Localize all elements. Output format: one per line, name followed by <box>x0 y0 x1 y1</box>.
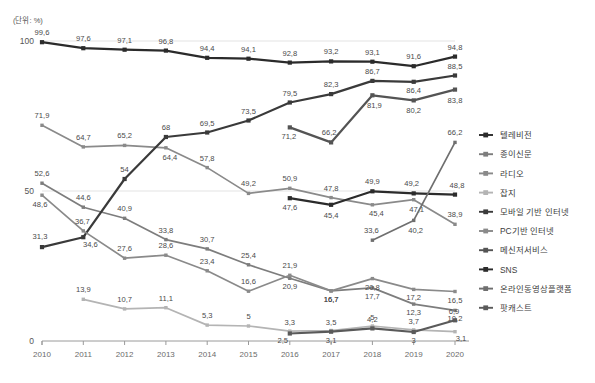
data-point-marker <box>40 40 44 44</box>
data-point-label: 25,4 <box>241 251 256 260</box>
data-point-marker <box>206 247 209 250</box>
legend-item-팟캐스트[interactable]: 팟캐스트 <box>479 303 532 313</box>
data-point-marker <box>329 203 333 207</box>
data-point-marker <box>412 80 416 84</box>
data-point-label: 71,9 <box>35 111 50 120</box>
data-point-label: 79,5 <box>282 89 297 98</box>
data-point-label: 91,6 <box>406 52 421 61</box>
data-point-label: 81,9 <box>367 101 382 110</box>
data-point-label: 13,9 <box>76 285 91 294</box>
series-모바일 기반 인터넷: 31,334,6546869,573,579,582,386,786,488,5 <box>33 62 463 250</box>
legend-label: 종이신문 <box>500 149 532 159</box>
data-point-label: 97,6 <box>76 34 91 43</box>
data-point-label: 33,8 <box>159 226 174 235</box>
data-point-marker <box>123 48 127 52</box>
legend-label: PC기반 인터넷 <box>500 226 554 236</box>
data-point-label: 45,4 <box>324 211 339 220</box>
data-point-label: 12,3 <box>406 308 421 317</box>
data-point-marker <box>288 196 292 200</box>
data-point-marker <box>412 191 416 195</box>
data-point-marker <box>205 56 209 60</box>
x-axis-tick-label: 2020 <box>446 350 464 359</box>
data-point-label: 69,5 <box>200 119 215 128</box>
data-point-label: 54 <box>120 165 128 174</box>
x-axis-tick-label: 2010 <box>33 350 51 359</box>
data-point-marker <box>329 196 332 199</box>
data-point-marker <box>412 302 415 305</box>
legend-marker-swatch <box>483 305 488 310</box>
data-point-marker <box>123 257 126 260</box>
legend-item-종이신문[interactable]: 종이신문 <box>479 149 532 159</box>
data-point-label: 50,9 <box>282 174 297 183</box>
data-point-label: 66,2 <box>322 128 337 137</box>
legend-marker-swatch <box>483 171 488 176</box>
data-point-label: 44,6 <box>76 193 91 202</box>
x-axis-tick-label: 2011 <box>75 350 93 359</box>
data-point-label: 17,7 <box>365 292 380 301</box>
data-point-marker <box>370 60 374 64</box>
data-point-marker <box>412 219 415 222</box>
legend-item-PC기반 인터넷[interactable]: PC기반 인터넷 <box>479 226 554 236</box>
legend-item-모바일 기반 인터넷[interactable]: 모바일 기반 인터넷 <box>479 207 569 217</box>
data-point-marker <box>370 189 374 193</box>
data-point-marker <box>81 46 85 50</box>
data-point-label: 6,9 <box>449 307 460 316</box>
data-point-label: 3,5 <box>326 318 337 327</box>
legend-item-SNS[interactable]: SNS <box>479 265 518 275</box>
data-point-label: 17,2 <box>406 293 421 302</box>
data-point-marker <box>123 217 126 220</box>
legend-item-메신저서비스[interactable]: 메신저서비스 <box>479 245 548 255</box>
legend-marker-swatch <box>483 152 488 157</box>
data-point-marker <box>206 323 209 326</box>
data-point-marker <box>453 193 457 197</box>
data-point-label: 16,5 <box>448 296 463 305</box>
legend-marker-swatch <box>483 248 488 253</box>
data-point-marker <box>288 187 291 190</box>
data-point-label: 94,1 <box>241 45 256 54</box>
data-point-marker <box>370 79 374 83</box>
legend-marker-swatch <box>483 209 488 214</box>
data-point-label: 86,7 <box>365 67 380 76</box>
legend-item-텔레비전[interactable]: 텔레비전 <box>479 130 532 140</box>
data-point-label: 64,4 <box>163 153 178 162</box>
data-point-label: 31,3 <box>33 232 48 241</box>
data-point-label: 47,6 <box>282 203 297 212</box>
legend-label: 팟캐스트 <box>500 303 532 313</box>
data-point-marker <box>123 177 127 181</box>
data-point-label: 94,8 <box>448 43 463 52</box>
legend-item-라디오[interactable]: 라디오 <box>479 169 524 179</box>
legend-label: 라디오 <box>500 169 524 179</box>
data-point-marker <box>82 145 85 148</box>
data-point-marker <box>123 307 126 310</box>
line-chart-plot: 1005002010201120122013201420152016201720… <box>0 0 595 383</box>
data-point-marker <box>164 306 167 309</box>
data-point-marker <box>371 203 374 206</box>
data-point-marker <box>40 124 43 127</box>
data-point-label: 57,8 <box>200 154 215 163</box>
data-point-label: 23,4 <box>200 257 215 266</box>
data-point-label: 49,2 <box>241 179 256 188</box>
data-point-label: 71,2 <box>281 132 296 141</box>
data-point-label: 49,2 <box>404 179 419 188</box>
data-point-marker <box>412 330 416 334</box>
data-point-marker <box>329 289 332 292</box>
data-point-label: 11,1 <box>159 294 173 303</box>
data-point-label: 2,5 <box>278 336 289 345</box>
data-point-label: 4,2 <box>367 315 378 324</box>
data-point-marker <box>412 64 416 68</box>
data-point-label: 16,7 <box>324 295 339 304</box>
data-point-marker <box>371 239 374 242</box>
data-point-marker <box>370 326 374 330</box>
data-point-label: 27,6 <box>117 244 132 253</box>
data-point-label: 92,8 <box>282 49 297 58</box>
series-line <box>83 299 455 331</box>
legend-label: 온라인동영상플랫폼 <box>500 284 572 294</box>
data-point-label: 30,7 <box>200 235 215 244</box>
data-point-label: 96,8 <box>159 37 174 46</box>
legend-item-잡지[interactable]: 잡지 <box>479 188 516 198</box>
data-point-label: 5,3 <box>202 311 213 320</box>
legend-item-온라인동영상플랫폼[interactable]: 온라인동영상플랫폼 <box>479 284 572 294</box>
legend-marker-swatch <box>483 229 488 234</box>
data-point-marker <box>412 98 416 102</box>
legend-marker-swatch <box>483 190 488 195</box>
